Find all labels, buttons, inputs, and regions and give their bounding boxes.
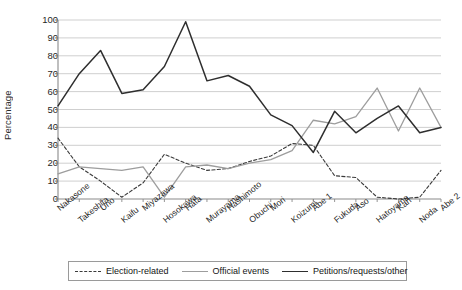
legend-line-swatch-icon xyxy=(282,267,308,276)
series-line xyxy=(58,22,441,153)
data-series-layer xyxy=(58,22,441,199)
plot-area xyxy=(0,0,462,290)
legend-line-swatch-icon xyxy=(182,267,208,276)
gridlines xyxy=(55,20,441,199)
axis-lines xyxy=(58,20,441,202)
legend-line-swatch-icon xyxy=(75,267,101,276)
legend-item: Election-related xyxy=(75,266,169,276)
line-chart: Percentage 0102030405060708090100 Nakaso… xyxy=(0,0,462,290)
legend-item: Petitions/requests/other xyxy=(282,266,408,276)
legend-item-label: Official events xyxy=(213,266,269,276)
legend-item: Official events xyxy=(182,266,269,276)
legend-item-label: Election-related xyxy=(106,266,169,276)
legend-item-label: Petitions/requests/other xyxy=(313,266,408,276)
legend: Election-relatedOfficial eventsPetitions… xyxy=(68,261,407,281)
